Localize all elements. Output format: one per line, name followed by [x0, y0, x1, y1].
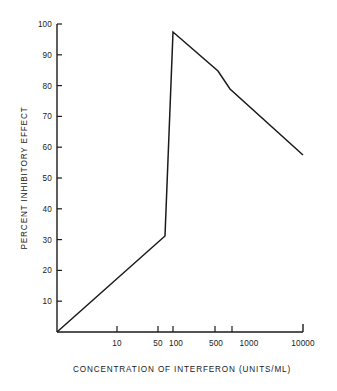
ytick-label-20: 20 — [43, 266, 53, 275]
ytick-label-50: 50 — [43, 174, 53, 183]
ytick-label-70: 70 — [43, 112, 53, 121]
y-axis-ticks — [57, 24, 62, 301]
y-axis-title: PERCENT INHIBITORY EFFECT — [20, 106, 29, 249]
line-chart: 100 90 80 70 60 50 40 30 20 10 10 50 100… — [0, 0, 337, 391]
xtick-label-10000: 10000 — [291, 339, 315, 348]
ytick-label-90: 90 — [43, 51, 53, 60]
ytick-label-60: 60 — [43, 143, 53, 152]
chart-figure: 100 90 80 70 60 50 40 30 20 10 10 50 100… — [0, 0, 337, 391]
xtick-label-100: 100 — [169, 339, 183, 348]
ytick-label-30: 30 — [43, 236, 53, 245]
ytick-label-10: 10 — [43, 297, 53, 306]
x-axis-title: CONCENTRATION OF INTERFERON (UNITS/ML) — [73, 365, 291, 374]
ytick-label-100: 100 — [38, 20, 52, 29]
data-line-inhibitory-effect — [57, 32, 303, 332]
xtick-label-500: 500 — [209, 339, 223, 348]
x-axis-ticks — [117, 324, 303, 332]
xtick-label-50: 50 — [153, 339, 163, 348]
ytick-label-80: 80 — [43, 82, 53, 91]
ytick-label-40: 40 — [43, 205, 53, 214]
xtick-label-1000: 1000 — [240, 339, 259, 348]
xtick-label-10: 10 — [112, 339, 122, 348]
